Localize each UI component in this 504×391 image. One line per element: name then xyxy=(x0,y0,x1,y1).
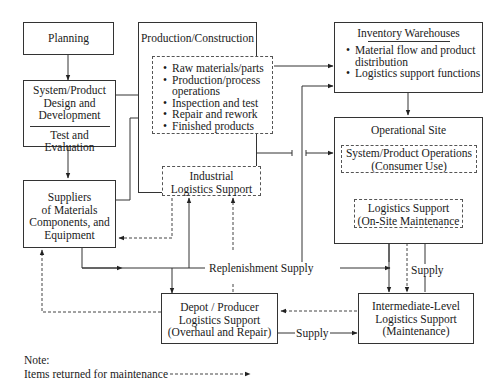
ops-line1: System/Product Operations xyxy=(342,147,476,160)
supply-right-label: Supply xyxy=(411,264,444,276)
industrial-logistics-box: Industrial Logistics Support xyxy=(162,166,261,196)
intermediate-box: Intermediate-Level Logistics Support (Ma… xyxy=(358,293,474,344)
inventory-box: Inventory Warehouses Material flow and p… xyxy=(334,22,483,93)
production-list: Raw materials/parts Production/process o… xyxy=(162,63,272,132)
depot-line1: Depot / Producer xyxy=(162,301,277,314)
depot-line3: (Overhaul and Repair) xyxy=(162,326,277,339)
note-text: Items returned for maintenance xyxy=(24,368,168,380)
system-operations-box: System/Product Operations (Consumer Use) xyxy=(341,145,477,173)
suppliers-box: Suppliers of Materials Components, and E… xyxy=(23,180,116,248)
suppliers-line3: Components, and xyxy=(24,216,115,229)
inventory-title: Inventory Warehouses xyxy=(335,27,482,39)
design-line3: Development xyxy=(24,109,115,122)
note-title: Note: xyxy=(24,354,50,366)
production-title: Production/Construction xyxy=(139,32,256,44)
depot-line2: Logistics Support xyxy=(162,314,277,327)
suppliers-line1: Suppliers xyxy=(24,191,115,204)
design-sub: Test and Evaluation xyxy=(24,129,115,154)
intermediate-line3: (Maintenance) xyxy=(359,325,473,338)
inventory-item: Logistics support functions xyxy=(345,68,482,80)
ops-line2: (Consumer Use) xyxy=(342,160,476,173)
operational-title: Operational Site xyxy=(335,124,482,136)
production-item: Finished products xyxy=(162,121,272,133)
production-activities: Raw materials/parts Production/process o… xyxy=(152,56,273,134)
planning-box: Planning xyxy=(23,22,114,55)
design-divider xyxy=(30,126,110,127)
depot-box: Depot / Producer Logistics Support (Over… xyxy=(161,293,278,344)
design-line1: System/Product xyxy=(24,84,115,97)
planning-label: Planning xyxy=(48,32,89,44)
supply-bottom-label: Supply xyxy=(296,327,329,339)
ls-line2: (On-Site Maintenance xyxy=(355,215,462,228)
intermediate-line2: Logistics Support xyxy=(359,313,473,326)
ls-line1: Logistics Support xyxy=(355,202,462,215)
inventory-item: Material flow and product distribution xyxy=(345,45,483,68)
design-line2: Design and xyxy=(24,97,115,110)
inventory-list: Material flow and product distribution L… xyxy=(345,45,482,80)
intermediate-line1: Intermediate-Level xyxy=(359,300,473,313)
ils-line1: Industrial xyxy=(163,170,260,183)
suppliers-line2: of Materials xyxy=(24,204,115,217)
design-box: System/Product Design and Development Te… xyxy=(23,80,116,147)
suppliers-line4: Equipment xyxy=(24,229,115,242)
ils-line2: Logistics Support xyxy=(163,183,260,196)
production-item: Repair and rework xyxy=(162,109,272,121)
onsite-logistics-box: Logistics Support (On-Site Maintenance xyxy=(354,199,463,228)
production-item: Production/process operations xyxy=(162,75,272,98)
replenishment-supply-label: Replenishment Supply xyxy=(209,262,313,274)
production-item: Raw materials/parts xyxy=(162,63,272,75)
inventory-divider xyxy=(368,41,450,42)
